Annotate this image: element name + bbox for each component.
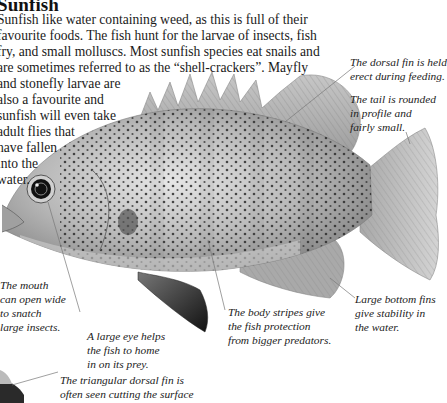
annotation-line: The triangular dorsal fin is	[60, 373, 194, 387]
annotation-line: can open wide	[0, 292, 66, 306]
annotation-line: give stability in	[355, 306, 436, 320]
intro-line: fry, and small molluscs. Most sunfish sp…	[0, 44, 320, 60]
annotation-triangular-fin: The triangular dorsal fin is often seen …	[60, 373, 194, 401]
intro-line: sunfish will even take	[0, 108, 116, 124]
annotation-tail: The tail is rounded in profile and fairl…	[350, 92, 436, 134]
annotation-eye: A large eye helps the fish to home in on…	[87, 329, 165, 371]
annotation-line: The mouth	[0, 278, 66, 292]
annotation-line: in on its prey.	[87, 357, 165, 371]
annotation-dorsal-fin: The dorsal fin is held erect during feed…	[350, 55, 447, 83]
annotation-line: the fish protection	[228, 319, 331, 333]
annotation-line: erect during feeding.	[350, 69, 447, 83]
annotation-line: from bigger predators.	[228, 333, 331, 347]
annotation-line: the water.	[355, 320, 436, 334]
annotation-line: The dorsal fin is held	[350, 55, 447, 69]
annotation-line: often seen cutting the surface	[60, 387, 194, 401]
annotation-body-stripes: The body stripes give the fish protectio…	[228, 305, 331, 347]
annotation-line: Large bottom fins	[355, 292, 436, 306]
annotation-bottom-fins: Large bottom fins give stability in the …	[355, 292, 436, 334]
annotation-line: A large eye helps	[87, 329, 165, 343]
annotation-line: The tail is rounded	[350, 92, 436, 106]
intro-line: into the	[0, 156, 38, 172]
intro-line: and stonefly larvae are	[0, 76, 120, 92]
annotation-line: to snatch	[0, 306, 66, 320]
intro-line: water.	[0, 172, 30, 188]
fish-eye	[27, 175, 55, 203]
annotation-line: the fish to home	[87, 343, 165, 357]
intro-line: adult flies that	[0, 124, 75, 140]
intro-line: also a favourite and	[0, 92, 104, 108]
intro-line: favourite foods. The fish hunt for the l…	[0, 28, 317, 44]
annotation-line: The body stripes give	[228, 305, 331, 319]
annotation-line: fairly small.	[350, 120, 436, 134]
annotation-line: in profile and	[350, 106, 436, 120]
intro-line: are sometimes referred to as the “shell-…	[0, 60, 308, 76]
annotation-line: large insects.	[0, 320, 66, 334]
intro-line: have fallen	[0, 140, 57, 156]
intro-line: Sunfish like water containing weed, as t…	[0, 12, 308, 28]
annotation-mouth: The mouth can open wide to snatch large …	[0, 278, 66, 334]
